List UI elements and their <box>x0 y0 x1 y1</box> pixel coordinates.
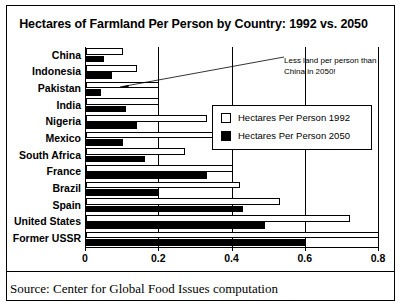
bar-2050-mexico <box>86 139 123 146</box>
bar-1992-united-states <box>86 215 350 222</box>
category-label-mexico: Mexico <box>45 133 81 144</box>
bar-row: Brazil <box>85 180 378 197</box>
category-label-spain: Spain <box>52 200 81 211</box>
x-tick-label: 0.4 <box>224 252 239 264</box>
category-label-france: France <box>47 166 81 177</box>
bar-row: Pakistan <box>85 80 378 97</box>
category-label-india: India <box>56 100 81 111</box>
legend-item-1992: Hectares Per Person 1992 <box>221 113 350 123</box>
category-label-brazil: Brazil <box>52 183 81 194</box>
x-tick-mark <box>158 247 159 251</box>
category-label-united-states: United States <box>14 216 81 227</box>
bar-1992-france <box>86 165 233 172</box>
source-note: Source: Center for Global Food Issues co… <box>10 281 278 297</box>
bar-1992-nigeria <box>86 115 207 122</box>
chart-legend: Hectares Per Person 1992 Hectares Per Pe… <box>212 105 372 150</box>
x-tick-label: 0.6 <box>297 252 312 264</box>
bar-2050-south-africa <box>86 156 145 163</box>
x-tick-label: 0.2 <box>151 252 166 264</box>
bar-1992-indonesia <box>86 65 137 72</box>
x-tick-mark <box>378 247 379 251</box>
category-label-indonesia: Indonesia <box>32 66 81 77</box>
bar-2050-nigeria <box>86 122 137 129</box>
legend-label-2050: Hectares Per Person 2050 <box>238 131 350 141</box>
bar-2050-pakistan <box>86 89 101 96</box>
x-tick-label: 0 <box>82 252 88 264</box>
bar-2050-spain <box>86 206 243 213</box>
bar-2050-brazil <box>86 189 159 196</box>
x-tick-mark <box>232 247 233 251</box>
chart-figure: Hectares of Farmland Per Person by Count… <box>0 0 401 307</box>
bar-row: Former USSR <box>85 230 378 247</box>
legend-swatch-white-square <box>221 113 231 123</box>
bar-1992-india <box>86 98 159 105</box>
bar-row: France <box>85 164 378 181</box>
source-divider <box>7 271 394 272</box>
bar-1992-china <box>86 48 123 55</box>
annotation-callout: Less land per person than China in 2050! <box>284 56 396 78</box>
x-tick-label: 0.8 <box>371 252 386 264</box>
bar-1992-former-ussr <box>86 232 379 239</box>
bar-1992-south-africa <box>86 148 185 155</box>
bar-2050-united-states <box>86 222 265 229</box>
category-label-china: China <box>52 50 81 61</box>
category-label-pakistan: Pakistan <box>38 83 81 94</box>
bar-row: United States <box>85 214 378 231</box>
x-tick-mark <box>85 247 86 251</box>
legend-item-2050: Hectares Per Person 2050 <box>221 131 350 141</box>
bar-2050-former-ussr <box>86 239 306 246</box>
bar-2050-indonesia <box>86 72 112 79</box>
category-label-nigeria: Nigeria <box>45 116 81 127</box>
bar-row: Spain <box>85 197 378 214</box>
category-label-former-ussr: Former USSR <box>13 233 81 244</box>
bar-2050-india <box>86 106 126 113</box>
bar-2050-france <box>86 172 207 179</box>
category-label-south-africa: South Africa <box>19 150 81 161</box>
bar-1992-mexico <box>86 132 214 139</box>
bar-2050-china <box>86 56 104 63</box>
chart-title: Hectares of Farmland Per Person by Count… <box>0 17 387 31</box>
legend-swatch-black-square <box>221 131 231 141</box>
legend-label-1992: Hectares Per Person 1992 <box>238 113 350 123</box>
bar-1992-spain <box>86 198 280 205</box>
bar-1992-pakistan <box>86 82 159 89</box>
x-tick-mark <box>305 247 306 251</box>
bar-1992-brazil <box>86 182 240 189</box>
